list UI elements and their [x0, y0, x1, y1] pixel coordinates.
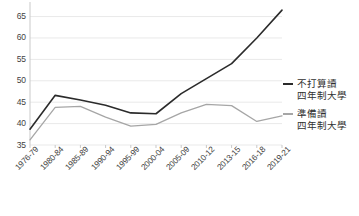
- x-tick-label: 1980-84: [39, 145, 66, 172]
- x-tick-label: 2019-21: [265, 145, 292, 172]
- legend-label-1-line2: 四年制大學: [297, 120, 347, 132]
- legend-item-0[interactable]: 不打算讀 四年制大學: [283, 78, 359, 101]
- x-tick-label: 2010-12: [190, 145, 217, 172]
- x-tick-label: 2000-04: [139, 145, 166, 172]
- line-chart: 35404550556065 1976-791980-841985-891990…: [0, 0, 359, 216]
- y-tick-label: 40: [0, 119, 26, 128]
- legend-label-1: 準備讀 四年制大學: [297, 108, 347, 131]
- y-axis: 35404550556065: [0, 8, 26, 145]
- y-tick-label: 45: [0, 98, 26, 107]
- series-line-0: [30, 10, 282, 129]
- x-tick-label: 1995-99: [114, 145, 141, 172]
- x-axis: 1976-791980-841985-891990-941995-992000-…: [30, 145, 282, 213]
- plot-area: [30, 8, 282, 145]
- legend-line-icon-0: [283, 83, 293, 85]
- y-tick-label: 55: [0, 55, 26, 64]
- x-tick-label: 1990-94: [89, 145, 116, 172]
- legend-label-0-line2: 四年制大學: [297, 90, 347, 102]
- legend-label-0-line1: 不打算讀: [297, 78, 337, 89]
- y-tick-label: 65: [0, 12, 26, 21]
- x-tick-label: 1985-89: [64, 145, 91, 172]
- legend-line-icon-1: [283, 113, 293, 115]
- series-lines: [30, 8, 282, 145]
- x-tick-label: 2013-15: [215, 145, 242, 172]
- x-tick-label: 2005-09: [165, 145, 192, 172]
- legend-item-1[interactable]: 準備讀 四年制大學: [283, 108, 359, 131]
- chart-legend: 不打算讀 四年制大學 準備讀 四年制大學: [283, 78, 359, 138]
- y-tick-label: 35: [0, 141, 26, 150]
- legend-label-0: 不打算讀 四年制大學: [297, 78, 347, 101]
- legend-label-1-line1: 準備讀: [297, 108, 327, 119]
- x-tick-label: 2016-18: [240, 145, 267, 172]
- y-tick-label: 60: [0, 33, 26, 42]
- y-tick-label: 50: [0, 76, 26, 85]
- series-line-1: [30, 104, 282, 140]
